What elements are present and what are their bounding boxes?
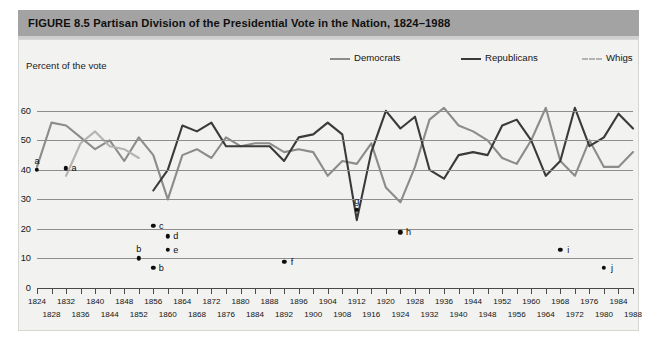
- legend-label: Whigs: [606, 52, 633, 63]
- x-axis-label: 1868: [188, 310, 206, 319]
- annotation-label-j: j: [611, 263, 613, 273]
- x-axis-label: 1916: [362, 310, 380, 319]
- x-axis-tick: [255, 288, 256, 294]
- x-axis-tick: [371, 288, 372, 294]
- x-axis-label: 1836: [72, 310, 90, 319]
- legend-swatch-icon: [582, 58, 602, 60]
- x-axis-tick: [342, 288, 343, 294]
- x-axis-tick: [459, 288, 460, 294]
- y-axis-tick-label: 50: [21, 135, 37, 145]
- x-axis-tick: [429, 288, 430, 294]
- gridline: [37, 170, 633, 171]
- x-axis-tick: [589, 288, 590, 294]
- x-axis-tick: [241, 288, 242, 294]
- x-axis-label: 1844: [101, 310, 119, 319]
- annotation-label-h: h: [406, 227, 411, 237]
- x-axis-label: 1980: [595, 310, 613, 319]
- x-axis-label: 1856: [144, 297, 162, 306]
- x-axis-label: 1944: [464, 297, 482, 306]
- x-axis-label: 1828: [43, 310, 61, 319]
- x-axis-tick: [328, 288, 329, 294]
- x-axis-label: 1948: [479, 310, 497, 319]
- x-axis-label: 1912: [348, 297, 366, 306]
- figure-title: FIGURE 8.5 Partisan Division of the Pres…: [18, 17, 450, 29]
- y-axis-tick-label: 30: [21, 194, 37, 204]
- x-axis-tick: [37, 288, 38, 294]
- annotation-label-a: a: [72, 163, 77, 173]
- x-axis-label: 1864: [173, 297, 191, 306]
- x-axis-tick: [633, 288, 634, 294]
- y-axis-tick-label: 60: [21, 106, 37, 116]
- x-axis-tick: [502, 288, 503, 294]
- x-axis-tick: [357, 288, 358, 294]
- figure-title-band: FIGURE 8.5 Partisan Division of the Pres…: [18, 10, 639, 36]
- annotation-label-e: e: [173, 245, 178, 255]
- x-axis-tick: [226, 288, 227, 294]
- gridline: [37, 229, 633, 230]
- x-axis-tick: [95, 288, 96, 294]
- x-axis-label: 1884: [246, 310, 264, 319]
- y-axis-tick-label: 20: [21, 224, 37, 234]
- series-line-republicans: [153, 108, 633, 220]
- x-axis-tick: [546, 288, 547, 294]
- annotation-label-i: i: [567, 245, 569, 255]
- x-axis-label: 1988: [624, 310, 642, 319]
- annotation-label-c: c: [159, 221, 164, 231]
- x-axis-tick: [270, 288, 271, 294]
- annotation-label-a: a: [34, 156, 39, 166]
- x-axis-label: 1832: [57, 297, 75, 306]
- annotation-label-b: b: [159, 263, 164, 273]
- x-axis-tick: [517, 288, 518, 294]
- legend-item-democrats: Democrats: [330, 52, 400, 63]
- x-axis-label: 1976: [580, 297, 598, 306]
- x-axis-tick: [284, 288, 285, 294]
- x-axis-tick: [110, 288, 111, 294]
- x-axis-label: 1964: [537, 310, 555, 319]
- x-axis-tick: [197, 288, 198, 294]
- x-axis-tick: [299, 288, 300, 294]
- x-axis-label: 1880: [231, 297, 249, 306]
- x-axis-label: 1924: [391, 310, 409, 319]
- series-line-democrats: [37, 108, 633, 203]
- x-axis-tick: [139, 288, 140, 294]
- annotation-label-f: f: [291, 257, 294, 267]
- x-axis-tick: [531, 288, 532, 294]
- x-axis-tick: [604, 288, 605, 294]
- x-axis-tick: [52, 288, 53, 294]
- x-axis-label: 1952: [493, 297, 511, 306]
- x-axis-tick: [415, 288, 416, 294]
- x-axis-label: 1896: [290, 297, 308, 306]
- x-axis-label: 1932: [420, 310, 438, 319]
- x-axis-label: 1956: [508, 310, 526, 319]
- x-axis-tick: [313, 288, 314, 294]
- x-axis-label: 1860: [159, 310, 177, 319]
- chart-legend: DemocratsRepublicansWhigs: [330, 52, 650, 68]
- x-axis-tick: [444, 288, 445, 294]
- x-axis-tick: [386, 288, 387, 294]
- legend-item-republicans: Republicans: [461, 52, 538, 63]
- x-axis-label: 1936: [435, 297, 453, 306]
- x-axis-tick: [473, 288, 474, 294]
- legend-label: Republicans: [485, 52, 538, 63]
- legend-label: Democrats: [354, 52, 400, 63]
- x-axis-label: 1876: [217, 310, 235, 319]
- x-axis-label: 1972: [566, 310, 584, 319]
- plot-area: 0102030405060aacdebbfghij: [37, 96, 633, 288]
- x-axis-tick: [560, 288, 561, 294]
- legend-swatch-icon: [330, 58, 350, 60]
- x-axis-tick: [66, 288, 67, 294]
- x-axis-label: 1892: [275, 310, 293, 319]
- x-axis-label: 1888: [261, 297, 279, 306]
- x-axis-tick: [168, 288, 169, 294]
- x-axis-tick: [488, 288, 489, 294]
- x-axis-tick: [400, 288, 401, 294]
- x-axis-tick: [81, 288, 82, 294]
- figure-page: FIGURE 8.5 Partisan Division of the Pres…: [0, 0, 657, 339]
- x-axis-label: 1824: [28, 297, 46, 306]
- x-axis-label: 1900: [304, 310, 322, 319]
- y-axis-tick-label: 0: [26, 283, 37, 293]
- x-axis-label: 1928: [406, 297, 424, 306]
- gridline: [37, 258, 633, 259]
- y-axis-caption: Percent of the vote: [26, 60, 107, 71]
- x-axis-tick: [124, 288, 125, 294]
